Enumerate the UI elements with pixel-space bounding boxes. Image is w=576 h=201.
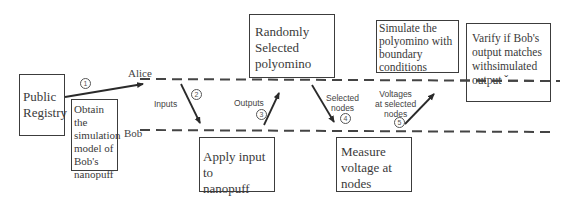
- step-2-number: 2: [191, 89, 202, 100]
- alice-lane-overlay-line: [460, 81, 560, 82]
- step-4-label-line: nodes: [326, 103, 359, 113]
- step-4-number: 4: [340, 113, 351, 124]
- step-4-label-line: Selected: [326, 93, 359, 103]
- step-3-label: Outputs: [234, 98, 264, 108]
- step-5-label-line: at selected: [375, 99, 416, 109]
- step-5-label-line: Voltages: [375, 89, 416, 99]
- step-3-number: 3: [256, 109, 267, 120]
- step-5-label: Voltages at selected nodes: [375, 89, 416, 119]
- step-2-label: Inputs: [154, 99, 177, 109]
- step-1-number: 1: [80, 78, 91, 89]
- alice-lane-overlay: [0, 0, 576, 201]
- step-4-label: Selected nodes: [326, 93, 359, 113]
- step-5-number: 5: [394, 117, 405, 128]
